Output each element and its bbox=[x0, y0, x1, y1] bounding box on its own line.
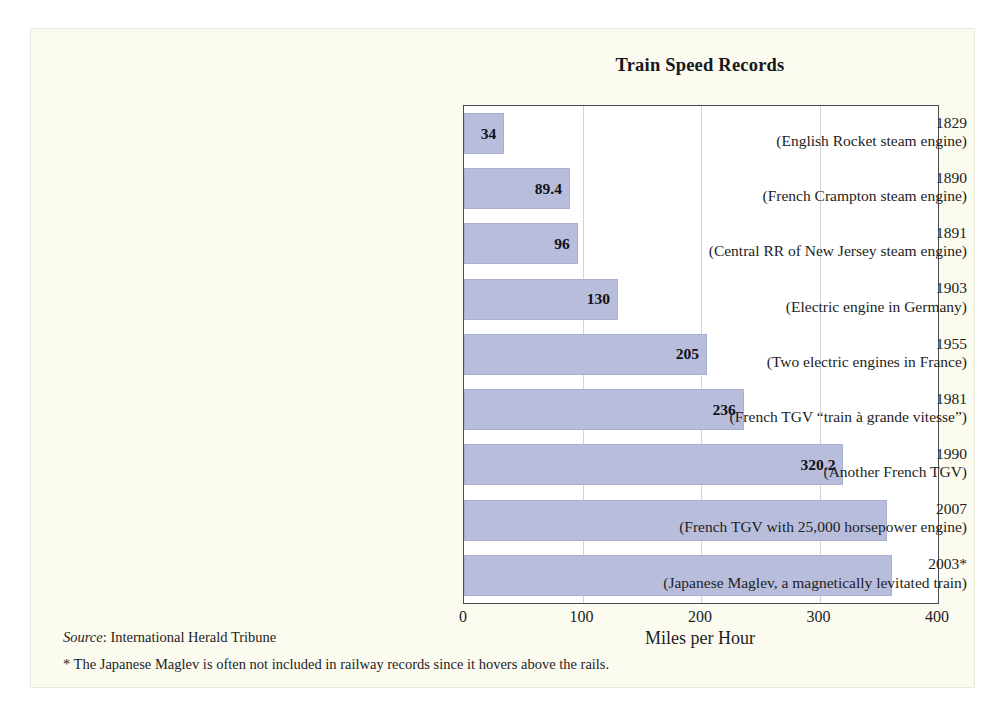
category-description: (French TGV with 25,000 horsepower engin… bbox=[555, 518, 967, 536]
category-description: (French Crampton steam engine) bbox=[555, 187, 967, 205]
category-year: 1890 bbox=[555, 169, 967, 187]
category-label: 1903(Electric engine in Germany) bbox=[555, 279, 975, 316]
category-label: 1890(French Crampton steam engine) bbox=[555, 169, 975, 206]
footnote-line: * The Japanese Maglev is often not inclu… bbox=[63, 656, 609, 673]
category-description: (Electric engine in Germany) bbox=[555, 298, 967, 316]
category-label: 2003*(Japanese Maglev, a magnetically le… bbox=[555, 555, 975, 592]
category-description: (English Rocket steam engine) bbox=[555, 132, 967, 150]
source-value: International Herald Tribune bbox=[110, 629, 276, 645]
x-tick-label: 200 bbox=[688, 608, 712, 626]
bar-value-label: 34 bbox=[481, 125, 497, 143]
category-description: (Japanese Maglev, a magnetically levitat… bbox=[555, 574, 967, 592]
x-axis-title: Miles per Hour bbox=[463, 628, 937, 649]
category-label: 1891(Central RR of New Jersey steam engi… bbox=[555, 224, 975, 261]
category-year: 1829 bbox=[555, 114, 967, 132]
category-label: 1981(French TGV “train à grande vitesse”… bbox=[555, 390, 975, 427]
category-year: 1903 bbox=[555, 279, 967, 297]
figure-panel: Train Speed Records 3489.496130205236320… bbox=[30, 28, 975, 688]
category-description: (Two electric engines in France) bbox=[555, 353, 967, 371]
chart-title: Train Speed Records bbox=[463, 55, 937, 76]
category-year: 1891 bbox=[555, 224, 967, 242]
category-label: 2007(French TGV with 25,000 horsepower e… bbox=[555, 500, 975, 537]
x-tick-label: 0 bbox=[459, 608, 467, 626]
source-label: Source bbox=[63, 629, 103, 645]
source-line: Source: International Herald Tribune bbox=[63, 629, 276, 646]
category-year: 1990 bbox=[555, 445, 967, 463]
category-description: (Central RR of New Jersey steam engine) bbox=[555, 242, 967, 260]
category-year: 1981 bbox=[555, 390, 967, 408]
x-tick-label: 300 bbox=[807, 608, 831, 626]
category-label: 1829(English Rocket steam engine) bbox=[555, 114, 975, 151]
category-label: 1990(Another French TGV) bbox=[555, 445, 975, 482]
category-label: 1955(Two electric engines in France) bbox=[555, 335, 975, 372]
x-tick-label: 400 bbox=[925, 608, 949, 626]
bar[interactable]: 34 bbox=[464, 113, 504, 154]
category-year: 2007 bbox=[555, 500, 967, 518]
category-year: 2003* bbox=[555, 555, 967, 573]
category-description: (Another French TGV) bbox=[555, 463, 967, 481]
category-year: 1955 bbox=[555, 335, 967, 353]
category-description: (French TGV “train à grande vitesse”) bbox=[555, 408, 967, 426]
x-tick-label: 100 bbox=[570, 608, 594, 626]
